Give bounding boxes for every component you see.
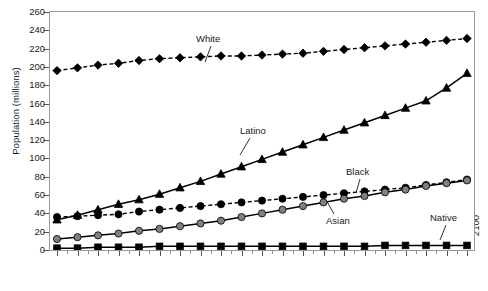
- x-tick-mark-2005: [78, 251, 79, 256]
- x-tick-mark-2035: [201, 251, 202, 256]
- data-point-native-2100: [464, 242, 471, 249]
- data-point-white-2095: [442, 36, 450, 44]
- x-tick-mark-2065: [324, 251, 325, 256]
- data-point-native-2030: [177, 243, 184, 250]
- data-point-white-2070: [340, 45, 348, 53]
- data-point-white-2015: [114, 59, 122, 67]
- data-point-black-2045: [238, 199, 245, 206]
- data-point-black-2015: [115, 211, 122, 218]
- data-point-white-2010: [94, 61, 102, 69]
- y-tick-label-0: 0: [11, 245, 45, 255]
- data-point-black-2020: [135, 208, 142, 215]
- data-point-native-2065: [320, 243, 327, 250]
- data-point-white-2085: [401, 40, 409, 48]
- x-tick-mark-2060: [303, 251, 304, 256]
- y-tick-label-260: 260: [11, 7, 45, 17]
- y-tick-label-160: 160: [11, 99, 45, 109]
- y-tick-label-220: 220: [11, 44, 45, 54]
- x-tick-mark-2030: [180, 251, 181, 256]
- data-point-white-2090: [422, 38, 430, 46]
- data-point-native-2020: [136, 244, 143, 250]
- data-point-asian-2070: [340, 195, 347, 202]
- data-point-native-2075: [361, 243, 368, 250]
- data-point-asian-2015: [115, 230, 122, 237]
- data-point-white-2045: [237, 52, 245, 60]
- data-point-native-2025: [156, 243, 163, 250]
- data-point-asian-2060: [299, 202, 306, 209]
- data-point-asian-2045: [238, 213, 245, 220]
- data-point-asian-2000: [53, 235, 60, 242]
- data-point-latino-2095: [442, 84, 450, 92]
- data-point-asian-2035: [197, 220, 204, 227]
- data-point-black-2065: [320, 191, 327, 198]
- callout-label-black: Black: [346, 167, 369, 177]
- x-tick-mark-2040: [221, 251, 222, 256]
- series-asian: [53, 177, 470, 243]
- data-point-native-2050: [259, 243, 266, 250]
- population-projection-chart: Population (millions) 020406080100120140…: [0, 0, 488, 291]
- series-white: [53, 34, 471, 74]
- x-tick-mark-2025: [160, 251, 161, 256]
- x-tick-mark-2090: [426, 251, 427, 256]
- callout-label-asian: Asian: [326, 216, 350, 226]
- data-point-native-2085: [402, 242, 409, 249]
- data-point-asian-2030: [176, 223, 183, 230]
- y-tick-label-40: 40: [11, 208, 45, 218]
- data-point-white-2080: [381, 42, 389, 50]
- y-tick-label-100: 100: [11, 153, 45, 163]
- data-point-asian-2080: [381, 189, 388, 196]
- data-point-asian-2055: [279, 206, 286, 213]
- data-point-asian-2100: [463, 177, 470, 184]
- x-tick-mark-2015: [119, 251, 120, 256]
- data-point-asian-2040: [217, 217, 224, 224]
- data-point-black-2025: [156, 206, 163, 213]
- x-tick-mark-2010: [98, 251, 99, 256]
- data-point-asian-2025: [156, 225, 163, 232]
- x-tick-mark-2050: [262, 251, 263, 256]
- x-tick-mark-2095: [447, 251, 448, 256]
- data-point-black-2030: [176, 204, 183, 211]
- data-point-asian-2010: [94, 232, 101, 239]
- x-tick-mark-2000: [57, 251, 58, 256]
- data-point-native-2040: [218, 243, 225, 250]
- data-point-native-2015: [115, 244, 122, 250]
- data-point-native-2070: [341, 243, 348, 250]
- data-point-white-2035: [196, 53, 204, 61]
- data-point-latino-2090: [422, 96, 430, 104]
- data-point-white-2100: [463, 34, 471, 42]
- y-tick-label-180: 180: [11, 80, 45, 90]
- data-point-native-2045: [238, 243, 245, 250]
- data-point-asian-2050: [258, 210, 265, 217]
- data-point-latino-2100: [463, 69, 471, 77]
- data-point-black-2035: [197, 202, 204, 209]
- y-tick-label-140: 140: [11, 117, 45, 127]
- data-point-black-2055: [279, 195, 286, 202]
- x-tick-mark-2070: [344, 251, 345, 256]
- x-tick-mark-2045: [242, 251, 243, 256]
- x-tick-mark-2020: [139, 251, 140, 256]
- series-native: [54, 242, 471, 250]
- data-point-asian-2095: [443, 180, 450, 187]
- data-point-asian-2085: [402, 186, 409, 193]
- data-point-asian-2090: [422, 182, 429, 189]
- data-point-white-2060: [299, 49, 307, 57]
- y-tick-label-120: 120: [11, 135, 45, 145]
- data-point-native-2055: [279, 243, 286, 250]
- data-point-white-2005: [73, 64, 81, 72]
- data-point-native-2095: [443, 242, 450, 249]
- y-tick-label-60: 60: [11, 190, 45, 200]
- y-tick-label-80: 80: [11, 172, 45, 182]
- data-point-asian-2005: [74, 234, 81, 241]
- x-tick-mark-2055: [283, 251, 284, 256]
- data-point-white-2055: [278, 50, 286, 58]
- data-point-native-2060: [300, 243, 307, 250]
- x-tick-mark-2080: [385, 251, 386, 256]
- data-point-native-2035: [197, 243, 204, 250]
- data-point-native-2090: [423, 242, 430, 249]
- y-tick-label-20: 20: [11, 227, 45, 237]
- data-point-black-2005: [74, 213, 81, 220]
- data-point-black-2000: [53, 213, 60, 220]
- y-tick-label-200: 200: [11, 62, 45, 72]
- x-tick-mark-2075: [365, 251, 366, 256]
- callout-label-latino: Latino: [240, 126, 266, 136]
